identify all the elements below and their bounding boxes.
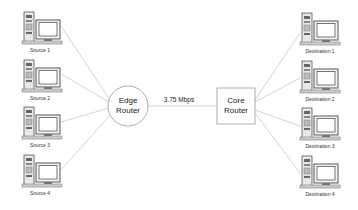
edge-router-label-line2: Router bbox=[116, 106, 140, 116]
destination-4-computer-icon bbox=[300, 156, 340, 188]
destination-1-label: Destination 1 bbox=[305, 48, 334, 54]
destination-4-label: Destination 4 bbox=[305, 191, 334, 197]
destination-2-computer-icon bbox=[300, 61, 340, 93]
source-3-label: Source 3 bbox=[30, 142, 50, 148]
destination-2-label: Destination 2 bbox=[305, 96, 334, 102]
source-4-label: Source 4 bbox=[30, 190, 50, 196]
core-router-label-line1: Core bbox=[224, 96, 248, 106]
source-1-label: Source 1 bbox=[30, 47, 50, 53]
bandwidth-label: 3.75 Mbps bbox=[164, 96, 194, 103]
core-router-label-line2: Router bbox=[224, 106, 248, 116]
source-3-computer-icon bbox=[22, 107, 62, 139]
destination-3-computer-icon bbox=[300, 108, 340, 140]
source-2-label: Source 2 bbox=[30, 95, 50, 101]
destination-3-label: Destination 3 bbox=[305, 143, 334, 149]
destination-links bbox=[255, 33, 300, 173]
edge-router-label: Edge Router bbox=[116, 96, 140, 116]
edge-router-label-line1: Edge bbox=[116, 96, 140, 106]
network-diagram bbox=[0, 0, 358, 210]
source-1-computer-icon bbox=[22, 12, 62, 44]
source-2-computer-icon bbox=[22, 60, 62, 92]
destination-1-computer-icon bbox=[300, 13, 340, 45]
source-4-computer-icon bbox=[22, 155, 62, 187]
core-router-label: Core Router bbox=[224, 96, 248, 116]
source-links bbox=[61, 26, 112, 170]
